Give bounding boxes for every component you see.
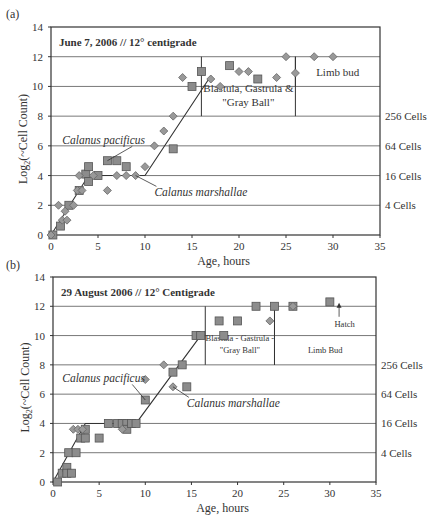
data-point-diamond	[310, 53, 318, 61]
y-tick-label: 12	[34, 300, 45, 312]
data-point-diamond	[122, 172, 130, 180]
y-tick-label: 14	[32, 21, 44, 33]
x-tick-label: 25	[281, 240, 293, 252]
data-point-square	[95, 434, 103, 442]
annotation-label: Hatch	[334, 319, 355, 329]
data-point-square	[178, 361, 186, 369]
x-axis-label: Age, hours	[196, 501, 249, 515]
y-tick-label: 12	[32, 51, 43, 63]
data-point-square	[82, 170, 90, 178]
x-tick-label: 25	[278, 487, 290, 499]
data-point-diamond	[160, 127, 168, 135]
data-point-square	[197, 332, 205, 340]
data-point-square	[169, 368, 177, 376]
x-tick-label: 20	[232, 487, 244, 499]
data-point-square	[252, 302, 260, 310]
figure-two-panel-scatter: (a)0510152025303502468101214Age, hoursLo…	[0, 0, 432, 528]
data-point-square	[65, 449, 73, 457]
annotation-leader	[132, 384, 145, 400]
annotation-label: Calanus marshallae	[154, 186, 247, 198]
stage-label: "Gray Ball"	[220, 345, 260, 355]
data-point-diamond	[273, 74, 281, 82]
x-tick-label: 15	[186, 487, 198, 499]
data-point-square	[132, 419, 140, 427]
data-point-square	[85, 163, 93, 171]
y-tick-label: 4	[40, 417, 46, 429]
trend-line	[53, 336, 201, 482]
x-tick-label: 30	[328, 240, 340, 252]
data-point-square	[169, 145, 177, 153]
chart-canvas: (a)0510152025303502468101214Age, hoursLo…	[0, 0, 432, 528]
data-point-square	[254, 75, 262, 83]
data-point-diamond	[160, 361, 168, 369]
data-point-diamond	[244, 68, 252, 76]
data-point-square	[85, 178, 93, 186]
y-axis-label: Log2(~Cell Count)	[18, 342, 34, 432]
x-tick-label: 35	[371, 487, 383, 499]
cell-count-label: 256 Cells	[381, 359, 423, 371]
data-point-diamond	[103, 186, 111, 194]
y-tick-label: 2	[38, 199, 44, 211]
x-tick-label: 0	[50, 487, 56, 499]
cell-count-label: 16 Cells	[385, 170, 421, 182]
data-point-diamond	[113, 172, 121, 180]
data-point-square	[215, 317, 223, 325]
stage-label: Blastula - Gastrula -	[206, 333, 275, 343]
data-point-square	[183, 383, 191, 391]
x-axis-label: Age, hours	[197, 254, 250, 268]
x-tick-label: 35	[375, 240, 387, 252]
chart-panel-a: (a)0510152025303502468101214Age, hoursLo…	[6, 7, 427, 268]
hatch-arrow-head	[337, 303, 342, 308]
x-tick-label: 10	[140, 240, 152, 252]
x-tick-label: 10	[140, 487, 152, 499]
stage-label: Limb Bud	[308, 345, 343, 355]
data-point-square	[188, 82, 196, 90]
data-point-square	[67, 469, 75, 477]
cell-count-label: 4 Cells	[381, 447, 412, 459]
cell-count-label: 64 Cells	[381, 388, 417, 400]
data-point-diamond	[55, 201, 63, 209]
y-tick-label: 0	[40, 476, 46, 488]
data-point-square	[104, 419, 112, 427]
y-tick-label: 8	[38, 110, 44, 122]
y-tick-label: 6	[38, 140, 44, 152]
x-tick-label: 5	[95, 240, 101, 252]
chart-panel-b: (b)0510152025303502468101214Age, hoursLo…	[6, 258, 423, 515]
data-point-square	[113, 157, 121, 165]
x-tick-label: 5	[96, 487, 102, 499]
panel-label: (a)	[6, 7, 19, 21]
data-point-square	[326, 298, 334, 306]
y-tick-label: 10	[34, 330, 46, 342]
x-tick-label: 30	[324, 487, 336, 499]
y-tick-label: 8	[40, 359, 46, 371]
y-tick-label: 0	[38, 229, 44, 241]
stage-label: "Gray Ball"	[222, 96, 274, 108]
x-tick-label: 15	[187, 240, 199, 252]
data-point-square	[81, 434, 89, 442]
data-point-square	[226, 62, 234, 70]
chart-title: June 7, 2006 // 12° centigrade	[59, 36, 197, 48]
data-point-square	[122, 163, 130, 171]
stage-label: Limb bud	[316, 66, 360, 78]
y-tick-label: 6	[40, 388, 46, 400]
y-tick-label: 10	[32, 80, 44, 92]
data-point-diamond	[179, 74, 187, 82]
annotation-leader	[136, 176, 157, 187]
annotation-label: Calanus pacificus	[62, 134, 145, 147]
y-tick-label: 2	[40, 447, 46, 459]
trend-line	[51, 76, 211, 235]
data-point-diamond	[141, 163, 149, 171]
panel-label: (b)	[6, 258, 20, 272]
data-point-diamond	[266, 317, 274, 325]
data-point-square	[270, 302, 278, 310]
data-point-diamond	[150, 142, 158, 150]
cell-count-label: 256 Cells	[385, 110, 427, 122]
data-point-diamond	[282, 53, 290, 61]
annotation-label: Calanus marshallae	[187, 397, 280, 409]
chart-title: 29 August 2006 // 12° Centigrade	[61, 286, 215, 298]
data-point-square	[72, 449, 80, 457]
data-point-diamond	[291, 69, 299, 77]
stage-label: Blastula, Gastrula &	[203, 82, 294, 94]
data-point-diamond	[235, 68, 243, 76]
series-calanus-pacificus	[54, 298, 334, 486]
